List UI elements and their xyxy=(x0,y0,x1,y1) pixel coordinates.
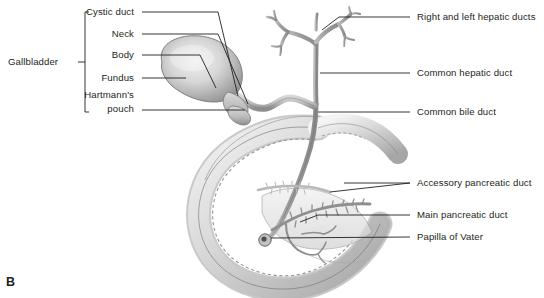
label-neck: Neck xyxy=(34,28,134,40)
label-body: Body xyxy=(34,49,134,61)
panel-letter: B xyxy=(6,275,15,289)
label-cystic-duct: Cystic duct xyxy=(34,6,134,18)
label-common-hepatic-duct: Common hepatic duct xyxy=(417,67,512,79)
label-accessory-pancreatic-duct: Accessory pancreatic duct xyxy=(417,177,531,189)
label-right-and-left-hepatic-ducts: Right and left hepatic ducts xyxy=(417,11,536,23)
label-common-bile-duct: Common bile duct xyxy=(417,106,496,118)
label-main-pancreatic-duct: Main pancreatic duct xyxy=(417,209,508,221)
anatomy-illustration xyxy=(161,7,398,289)
leader-accessory-pancreatic-duct-tip xyxy=(330,183,410,192)
label-fundus: Fundus xyxy=(34,72,134,84)
biliary-anatomy-figure xyxy=(0,0,544,298)
duodenal-bulb xyxy=(318,124,398,154)
label-hartmanns-pouch-line2: pouch xyxy=(34,103,134,115)
gallbladder xyxy=(161,36,250,125)
label-papilla-of-vater: Papilla of Vater xyxy=(417,231,483,243)
papilla-of-vater xyxy=(259,234,271,246)
cystic-duct xyxy=(238,96,314,108)
hepatic-duct-tree xyxy=(267,7,360,104)
label-hartmanns-pouch-line1: Hartmann's xyxy=(34,89,134,101)
